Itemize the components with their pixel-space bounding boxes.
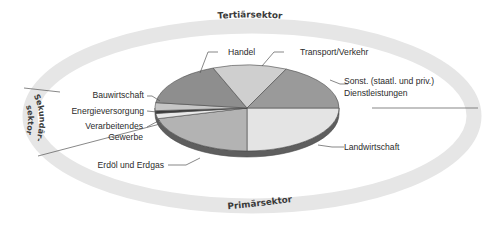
label-verarb-line2: Gewerbe bbox=[108, 132, 143, 142]
label-bau: Bauwirtschaft bbox=[92, 90, 144, 100]
label-energie: Energieversorgung bbox=[71, 106, 144, 116]
leader-landwirtschaft bbox=[318, 145, 344, 147]
pie-chart bbox=[155, 65, 339, 157]
pie-slice-landwirtschaft bbox=[247, 108, 339, 151]
label-sonst-line2: Dienstleistungen bbox=[344, 88, 408, 98]
label-verarb-line1: Verarbeitendes bbox=[85, 121, 143, 131]
label-landwirtschaft: Landwirtschaft bbox=[344, 142, 400, 152]
label-handel: Handel bbox=[228, 47, 255, 57]
leader-transport bbox=[262, 52, 284, 66]
leader-erdoel bbox=[168, 158, 200, 165]
tertiary-sector-label: Tertiärsektor bbox=[217, 9, 283, 20]
label-transport: Transport/Verkehr bbox=[300, 47, 369, 57]
label-erdoel: Erdöl und Erdgas bbox=[98, 160, 164, 170]
label-sonst-line1: Sonst. (staatl. und priv.) bbox=[344, 76, 434, 86]
economic-sectors-diagram: Tertiärsektor Primärsektor Sekundär- sek… bbox=[0, 0, 497, 228]
